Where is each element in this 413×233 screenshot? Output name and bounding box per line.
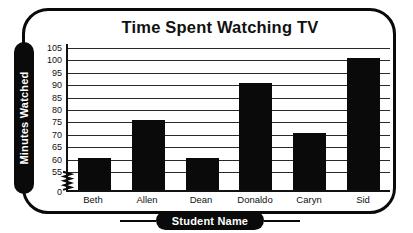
category-label-caryn: Caryn	[282, 194, 336, 205]
y-axis-tick-label: 60	[38, 155, 62, 164]
bar-slot	[336, 44, 389, 190]
bar-slot	[283, 44, 336, 190]
y-axis-tick-label: 90	[38, 81, 62, 90]
y-axis-tick-label: 95	[38, 68, 62, 77]
category-label-allen: Allen	[120, 194, 174, 205]
category-label-dean: Dean	[174, 194, 228, 205]
chart-screenshot: Time Spent Watching TV Minutes Watched 1…	[0, 0, 413, 233]
bar-sid	[347, 58, 380, 190]
y-axis-tick-label: 0	[38, 188, 62, 197]
category-label-beth: Beth	[66, 194, 120, 205]
bar-dean	[186, 158, 219, 190]
bar-slot	[68, 44, 121, 190]
y-axis-tick-label: 100	[38, 56, 62, 65]
bar-slot	[122, 44, 175, 190]
bars-layer	[68, 44, 390, 190]
axis-break-zigzag-icon	[60, 170, 74, 192]
x-axis-pill-tail-left	[120, 220, 156, 222]
bar-caryn	[293, 133, 326, 190]
plot-wrapper: 1051009590858075706560550	[38, 44, 390, 192]
plot-area	[66, 44, 390, 192]
y-axis-tick-label: 85	[38, 93, 62, 102]
y-axis-tick-label: 80	[38, 106, 62, 115]
bar-beth	[78, 158, 111, 190]
category-label-sid: Sid	[336, 194, 390, 205]
y-axis-tick-labels: 1051009590858075706560550	[38, 44, 62, 192]
bar-slot	[229, 44, 282, 190]
x-axis-pill-tail-right	[264, 220, 300, 222]
bar-allen	[132, 120, 165, 190]
x-axis-label-group: Student Name	[120, 211, 300, 230]
x-axis-label-text: Student Name	[172, 215, 248, 227]
y-axis-tick-label: 105	[38, 44, 62, 53]
bar-slot	[175, 44, 228, 190]
y-axis-label-text: Minutes Watched	[18, 71, 30, 164]
chart-title: Time Spent Watching TV	[60, 18, 380, 37]
y-axis-tick-label: 75	[38, 118, 62, 127]
y-axis-label-pill: Minutes Watched	[14, 42, 34, 194]
x-axis-category-labels: BethAllenDeanDonaldoCarynSid	[66, 194, 390, 205]
bar-donaldo	[239, 83, 272, 190]
y-axis-tick-label: 55	[38, 168, 62, 177]
y-axis-tick-label: 65	[38, 143, 62, 152]
y-axis-tick-label: 70	[38, 130, 62, 139]
category-label-donaldo: Donaldo	[228, 194, 282, 205]
x-axis-label-pill: Student Name	[156, 211, 264, 230]
